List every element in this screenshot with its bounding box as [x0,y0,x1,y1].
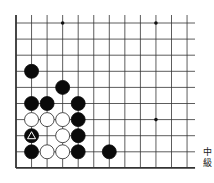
white-stone-disc [56,145,70,159]
grid-lines [16,15,195,168]
black-stone [71,145,85,159]
black-stone-disc [102,145,116,159]
black-stone [25,145,39,159]
black-stone [40,97,54,111]
black-stone-disc [71,145,85,159]
black-stone [71,113,85,127]
white-stone [40,113,54,127]
star-point [154,118,158,122]
stones [25,64,117,159]
white-stone [56,129,70,143]
white-stone-disc [56,113,70,127]
white-stone [56,145,70,159]
white-stone-disc [40,113,54,127]
star-point [61,21,65,25]
black-stone [25,129,39,143]
black-stone [56,80,70,94]
white-stone [25,113,39,127]
black-stone [102,145,116,159]
white-stone-disc [25,113,39,127]
black-stone-disc [56,80,70,94]
white-stone [40,145,54,159]
white-stone-disc [56,129,70,143]
black-stone-disc [71,97,85,111]
black-stone-disc [25,64,39,78]
black-stone [71,97,85,111]
black-stone [71,129,85,143]
black-stone-disc [25,145,39,159]
star-point [154,21,158,25]
caption-line-2: 級 [203,158,212,168]
black-stone-disc [71,129,85,143]
black-stone [25,97,39,111]
caption-line-1: 中 [203,147,212,157]
black-stone [25,64,39,78]
go-board [0,0,214,183]
white-stone-disc [40,145,54,159]
black-stone-disc [40,97,54,111]
black-stone-disc [25,97,39,111]
white-stone [56,113,70,127]
black-stone-disc [71,113,85,127]
